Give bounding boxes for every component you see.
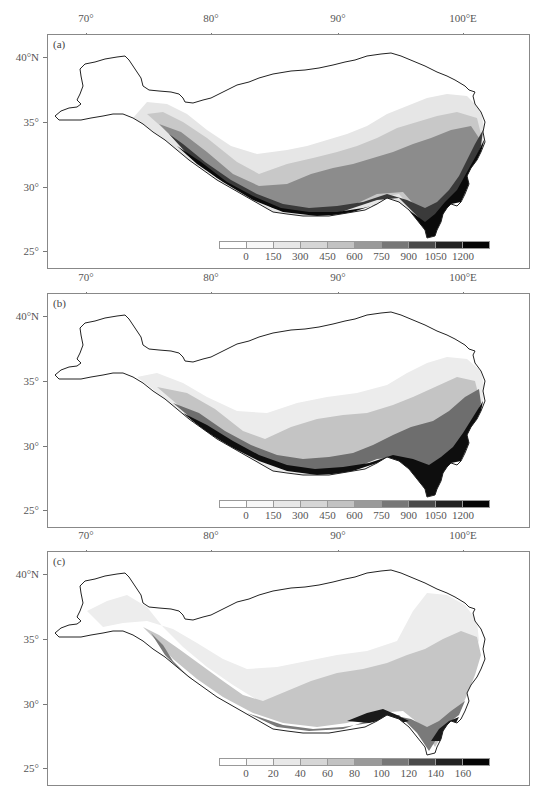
colorbar-segment	[274, 242, 301, 248]
colorbar-tick-label: 60	[322, 767, 333, 779]
tibetan-plateau-map	[47, 551, 530, 786]
x-tick-label: 80°	[203, 529, 218, 541]
colorbar-tick-label: 1200	[452, 250, 474, 262]
colorbar-segment	[409, 501, 436, 507]
colorbar-tick-label: 0	[243, 767, 249, 779]
colorbar-tick-label: 1050	[425, 250, 447, 262]
colorbar-segment	[301, 501, 328, 507]
colorbar-tick-label: 100	[373, 767, 390, 779]
map-panel-a: 70°80°90°100°E40°N35°30°25°(a)0150300450…	[47, 34, 530, 269]
colorbar-segment	[247, 759, 274, 765]
colorbar	[219, 500, 490, 508]
colorbar-tick-label: 140	[428, 767, 445, 779]
colorbar-tick-label: 450	[319, 250, 336, 262]
colorbar-segment	[301, 759, 328, 765]
colorbar-segment	[274, 759, 301, 765]
colorbar-segment	[301, 242, 328, 248]
colorbar-tick-label: 1050	[425, 509, 447, 521]
colorbar-segment	[382, 759, 409, 765]
colorbar-tick-label: 0	[243, 250, 249, 262]
x-tick-label: 80°	[203, 12, 218, 24]
x-tick-label: 70°	[78, 529, 93, 541]
colorbar-segment	[463, 501, 489, 507]
colorbar-tick-label: 1200	[452, 509, 474, 521]
colorbar-segment	[274, 501, 301, 507]
colorbar-segment	[328, 501, 355, 507]
colorbar-segment	[436, 759, 463, 765]
colorbar-tick-label: 150	[265, 250, 282, 262]
colorbar-labels: 015030045060075090010501200	[219, 250, 490, 264]
x-tick-label: 70°	[78, 271, 93, 283]
colorbar-tick-label: 300	[292, 509, 309, 521]
colorbar-tick-label: 750	[373, 509, 390, 521]
y-tick-label: 25°	[1, 245, 39, 257]
colorbar-tick-label: 900	[400, 509, 417, 521]
panel-label: (b)	[53, 297, 66, 309]
map-panel-c: 70°80°90°100°E40°N35°30°25°(c)0204060801…	[47, 551, 530, 786]
colorbar-segment	[328, 242, 355, 248]
colorbar-segment	[382, 501, 409, 507]
colorbar-tick-label: 450	[319, 509, 336, 521]
colorbar-tick-label: 120	[400, 767, 417, 779]
y-tick-label: 35°	[1, 375, 39, 387]
x-tick-label: 80°	[203, 271, 218, 283]
colorbar	[219, 758, 490, 766]
x-tick-label: 90°	[330, 12, 345, 24]
panel-label: (a)	[53, 38, 65, 50]
y-tick-label: 40°N	[1, 568, 39, 580]
x-tick-label: 90°	[330, 271, 345, 283]
colorbar-tick-label: 40	[295, 767, 306, 779]
colorbar-segment	[328, 759, 355, 765]
colorbar-labels: 015030045060075090010501200	[219, 509, 490, 523]
y-tick-label: 30°	[1, 698, 39, 710]
y-tick-label: 40°N	[1, 51, 39, 63]
colorbar-tick-label: 600	[346, 509, 363, 521]
x-tick-label: 100°E	[449, 271, 477, 283]
y-tick-label: 30°	[1, 181, 39, 193]
colorbar-segment	[436, 242, 463, 248]
colorbar-tick-label: 150	[265, 509, 282, 521]
colorbar-tick-label: 80	[349, 767, 360, 779]
colorbar-segment	[355, 242, 382, 248]
y-tick-label: 35°	[1, 116, 39, 128]
colorbar-segment	[355, 759, 382, 765]
colorbar-segment	[382, 242, 409, 248]
tibetan-plateau-map	[47, 34, 530, 269]
colorbar	[219, 241, 490, 249]
colorbar-segment	[355, 501, 382, 507]
colorbar-tick-label: 160	[455, 767, 472, 779]
x-tick-label: 90°	[330, 529, 345, 541]
colorbar-segment	[220, 759, 247, 765]
colorbar-tick-label: 0	[243, 509, 249, 521]
colorbar-segment	[409, 759, 436, 765]
y-tick-label: 35°	[1, 633, 39, 645]
x-tick-label: 70°	[78, 12, 93, 24]
colorbar-segment	[247, 242, 274, 248]
colorbar-segment	[409, 242, 436, 248]
y-tick-label: 25°	[1, 762, 39, 774]
y-tick-label: 30°	[1, 440, 39, 452]
colorbar-segment	[436, 501, 463, 507]
colorbar-tick-label: 20	[268, 767, 279, 779]
colorbar-segment	[463, 242, 489, 248]
colorbar-tick-label: 600	[346, 250, 363, 262]
y-tick-label: 40°N	[1, 310, 39, 322]
tibetan-plateau-map	[47, 293, 530, 528]
colorbar-segment	[247, 501, 274, 507]
colorbar-labels: 020406080100120140160	[219, 767, 490, 781]
x-tick-label: 100°E	[449, 529, 477, 541]
map-panel-b: 70°80°90°100°E40°N35°30°25°(b)0150300450…	[47, 293, 530, 528]
x-tick-label: 100°E	[449, 12, 477, 24]
colorbar-tick-label: 900	[400, 250, 417, 262]
y-tick-label: 25°	[1, 504, 39, 516]
colorbar-segment	[220, 501, 247, 507]
panel-label: (c)	[53, 555, 65, 567]
colorbar-segment	[220, 242, 247, 248]
colorbar-tick-label: 750	[373, 250, 390, 262]
colorbar-tick-label: 300	[292, 250, 309, 262]
colorbar-segment	[463, 759, 489, 765]
